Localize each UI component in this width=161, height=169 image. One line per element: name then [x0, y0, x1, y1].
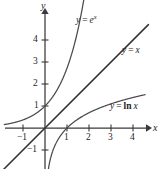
x-tick-label-3: 3	[108, 133, 113, 143]
exp-label-lhs: y	[76, 15, 80, 25]
identity-label-rhs: x	[136, 45, 140, 55]
y-tick-label--1: −1	[27, 145, 37, 155]
log-label-eq: =	[116, 101, 121, 111]
y-tick-label-4: 4	[33, 35, 38, 45]
exp-label-exponent: x	[94, 13, 97, 20]
y-axis-name: y	[41, 1, 45, 11]
x-tick-label-4: 4	[130, 133, 135, 143]
identity-label-lhs: y	[122, 45, 126, 55]
exp-label-eq: =	[82, 15, 87, 25]
graph-figure: −1 1 2 3 4 4 3 2 1 −1 x y y=ex y=x y=lnx	[0, 0, 161, 169]
curve-label-identity: y=x	[122, 46, 140, 56]
y-tick-label-3: 3	[33, 57, 38, 67]
x-tick-label--1: −1	[17, 133, 27, 143]
curve-label-exp: y=ex	[76, 16, 97, 26]
x-axis-name: x	[153, 123, 157, 133]
x-tick-label-2: 2	[86, 133, 91, 143]
identity-label-eq: =	[128, 45, 133, 55]
x-axis-arrowhead	[146, 124, 152, 131]
log-label-arg: x	[134, 101, 138, 111]
log-label-fn: ln	[124, 101, 132, 111]
y-tick-label-2: 2	[33, 79, 38, 89]
y-tick-label-1: 1	[34, 101, 39, 111]
log-label-lhs: y	[110, 101, 114, 111]
curve-label-log: y=lnx	[110, 102, 138, 112]
x-tick-label-1: 1	[64, 133, 69, 143]
